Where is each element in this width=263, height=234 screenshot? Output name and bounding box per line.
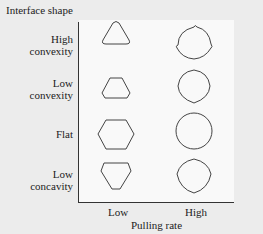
truncated-triangle-shape <box>102 78 130 98</box>
bumpy-circle-shape <box>176 26 212 60</box>
circle-shape <box>176 113 212 149</box>
hexagon-shape <box>98 120 134 149</box>
rounded-inverted-triangular-circle-shape <box>177 159 211 193</box>
rounded-triangular-circle-shape <box>178 70 210 103</box>
shapes-diagram <box>0 0 263 234</box>
rounded-triangle-shape <box>102 22 129 45</box>
inverted-truncated-triangle-shape <box>101 163 131 189</box>
